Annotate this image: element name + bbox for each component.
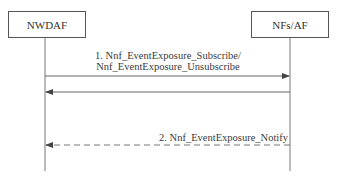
message-1-label-line1: 1. Nnf_EventExposure_Subscribe/ bbox=[68, 50, 268, 61]
message-1-label-line2: Nnf_EventExposure_Unsubscribe bbox=[68, 61, 268, 72]
actor-box-nwdaf: NWDAF bbox=[8, 11, 86, 38]
message-2-label: 2. Nnf_EventExposure_Notify bbox=[68, 132, 288, 143]
actor-box-nfs-af: NFs/AF bbox=[251, 11, 329, 38]
message-2-label-text: 2. Nnf_EventExposure_Notify bbox=[159, 132, 288, 143]
message-1-label: 1. Nnf_EventExposure_Subscribe/ Nnf_Even… bbox=[68, 50, 268, 72]
actor-label-nwdaf: NWDAF bbox=[27, 19, 67, 31]
actor-label-nfs-af: NFs/AF bbox=[272, 19, 307, 31]
